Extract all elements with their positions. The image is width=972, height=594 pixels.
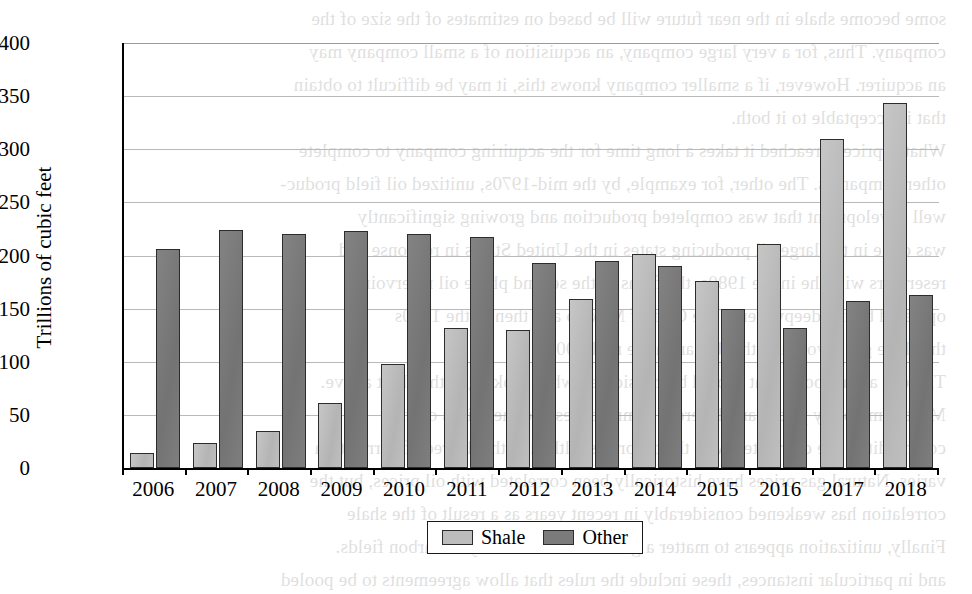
x-axis-tick (686, 468, 688, 475)
bar-group (249, 43, 312, 468)
bar-shale-2013 (569, 299, 593, 468)
bar-other-2018 (909, 295, 933, 468)
bar-other-2006 (156, 249, 180, 468)
bar-shale-2017 (820, 139, 844, 468)
bar-group (437, 43, 500, 468)
y-axis-title: Trillions of cubic feet (32, 48, 57, 468)
bar-other-2015 (721, 309, 745, 468)
x-axis-tick (247, 468, 249, 475)
legend-entry-shale[interactable]: Shale (442, 527, 525, 547)
x-axis-tick (435, 468, 437, 475)
x-axis-tick (937, 468, 939, 475)
bar-shale-2016 (757, 244, 781, 468)
bar-other-2016 (783, 328, 807, 468)
bar-group (688, 43, 751, 468)
bar-group (312, 43, 375, 468)
x-axis-tick (561, 468, 563, 475)
bar-other-2011 (470, 237, 494, 468)
plot-area (122, 43, 939, 470)
y-axis-tick-label: 250 (0, 192, 30, 213)
bar-group (814, 43, 877, 468)
bar-group (876, 43, 939, 468)
x-axis-tick (498, 468, 500, 475)
x-axis-tick-label: 2018 (866, 476, 946, 502)
bar-other-2012 (532, 263, 556, 468)
x-axis-tick (373, 468, 375, 475)
x-axis-ticks (122, 468, 939, 476)
bar-shale-2006 (130, 453, 154, 468)
bar-shale-2014 (632, 254, 656, 468)
chart-legend: ShaleOther (427, 521, 643, 554)
bar-group (187, 43, 250, 468)
bar-group (375, 43, 438, 468)
legend-entry-other[interactable]: Other (543, 527, 628, 547)
bar-group (563, 43, 626, 468)
y-axis-tick-label: 300 (0, 139, 30, 160)
legend-label: Shale (481, 527, 525, 547)
bar-other-2014 (658, 266, 682, 468)
bar-other-2007 (219, 230, 243, 468)
bar-shale-2008 (256, 431, 280, 468)
bar-group (626, 43, 689, 468)
y-axis-tick-label: 0 (0, 458, 30, 479)
y-axis-tick-label: 100 (0, 352, 30, 373)
x-axis-tick (749, 468, 751, 475)
bar-other-2008 (282, 234, 306, 468)
x-axis-tick (812, 468, 814, 475)
x-axis-tick (874, 468, 876, 475)
y-axis-tick-label: 400 (0, 33, 30, 54)
bar-group (500, 43, 563, 468)
legend-label: Other (582, 527, 628, 547)
bar-other-2010 (407, 234, 431, 468)
bar-shale-2010 (381, 364, 405, 468)
dark-gray-swatch (543, 530, 574, 545)
bar-other-2009 (344, 231, 368, 468)
bar-shale-2011 (444, 328, 468, 468)
bar-other-2013 (595, 261, 619, 468)
bars-layer (124, 43, 939, 468)
x-axis-tick-labels: 2006200720082009201020112012201320142015… (122, 476, 939, 506)
bar-shale-2018 (883, 103, 907, 469)
y-axis-tick-label: 50 (0, 405, 30, 426)
bar-group (751, 43, 814, 468)
y-axis-tick-label: 200 (0, 246, 30, 267)
bar-shale-2007 (193, 443, 217, 469)
bar-shale-2012 (506, 330, 530, 468)
x-axis-tick (185, 468, 187, 475)
light-gray-swatch (442, 530, 473, 545)
y-axis-tick-label: 350 (0, 86, 30, 107)
bar-other-2017 (846, 301, 870, 468)
x-axis-tick (310, 468, 312, 475)
bar-group (124, 43, 187, 468)
x-axis-tick (624, 468, 626, 475)
y-axis-tick-label: 150 (0, 299, 30, 320)
x-axis-tick (122, 468, 124, 475)
bar-shale-2009 (318, 403, 342, 468)
bar-shale-2015 (695, 281, 719, 468)
